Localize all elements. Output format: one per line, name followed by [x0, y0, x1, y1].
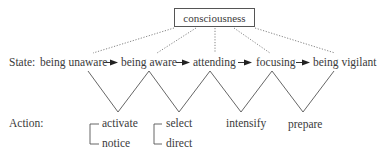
state-row-label: State:	[9, 57, 35, 69]
state-being-vigilant: being vigilant	[313, 57, 377, 69]
action-notice: notice	[102, 138, 130, 150]
state-attending: attending	[193, 57, 236, 69]
action-intensify: intensify	[226, 118, 266, 130]
action-prepare: prepare	[288, 119, 322, 131]
bracket-icon	[90, 124, 99, 144]
arrow-icon	[296, 60, 310, 66]
root-label: consciousness	[183, 12, 245, 24]
action-direct: direct	[166, 138, 192, 150]
dotted-links	[93, 28, 335, 53]
consciousness-box: consciousness	[174, 8, 255, 27]
action-select: select	[166, 118, 192, 130]
bracket-icon	[154, 124, 162, 144]
state-focusing: focusing	[256, 57, 296, 69]
arrow-icon	[238, 60, 252, 66]
state-being-unaware: being unaware	[40, 57, 107, 69]
state-being-aware: being aware	[121, 57, 177, 69]
zigzag-line	[88, 71, 334, 112]
action-row-label: Action:	[9, 118, 44, 130]
action-activate: activate	[102, 118, 138, 130]
arrow-icon	[176, 60, 190, 66]
